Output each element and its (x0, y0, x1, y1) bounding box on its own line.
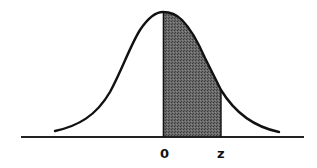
zero-label: 0 (160, 146, 169, 161)
z-label: z (217, 146, 225, 161)
normal-curve-diagram (0, 0, 317, 168)
